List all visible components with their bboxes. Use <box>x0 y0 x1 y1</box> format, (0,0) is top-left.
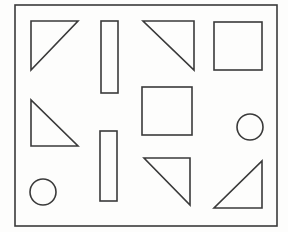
shapes-canvas: Geometric shapes arrangement A rectangul… <box>0 0 288 232</box>
figure-background <box>0 0 288 232</box>
figure-container: Geometric shapes arrangement A rectangul… <box>0 0 288 232</box>
